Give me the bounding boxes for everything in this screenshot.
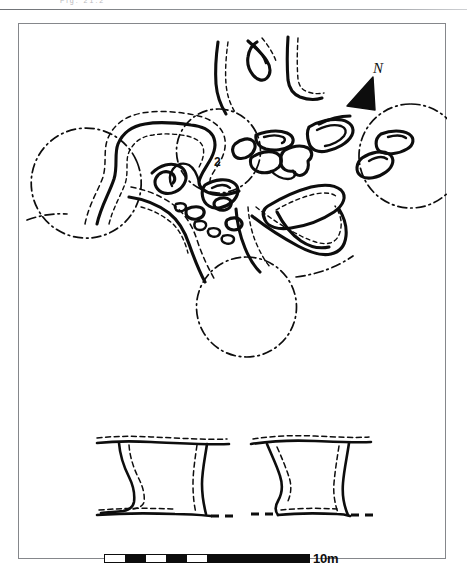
scan-header-strip: Fig. 21.2 [0,0,467,12]
section-right-cut-left [267,444,282,515]
north-arrow-glyph [341,60,397,120]
tumble-north-strip-a [226,42,235,112]
scale-bar-segment [166,555,186,562]
stone-c3 [250,152,281,173]
section-left-base-dash [99,508,173,510]
tumble-north-corner-inner [297,38,324,94]
stone-c6-inner [369,157,387,161]
section-right-cut-right-dash [334,446,339,513]
section-left-base [97,513,211,516]
north-arrow: N [341,60,397,120]
stone-c1-inner [264,136,285,144]
section-right-ground-dash [253,436,369,439]
stone-d3 [222,235,234,244]
scale-bar-segment [187,555,207,562]
scan-header-text: Fig. 21.2 [60,0,105,4]
tumble-sw-inner [141,207,188,253]
stone-d2 [208,228,220,237]
scale-bar-segment [105,555,125,562]
section-left-cut-right-dash [193,445,197,513]
projected-edge-south-east [296,256,353,277]
wall-sw-long [129,197,205,282]
cross-section-right [251,436,375,516]
stone-c5-inner [388,136,406,138]
scale-bar-group: 10m [104,552,338,564]
scale-bar-segment [146,555,166,562]
stone-c2-inner [317,125,346,146]
wall-north-leaf [248,41,270,80]
scale-bar-segment [207,555,309,562]
stone-c9-small [186,207,204,219]
stone-c4-long [263,185,344,228]
section-left-cut [101,443,134,513]
scan-header-rule [0,9,467,10]
figure-frame: .wall { fill:none; stroke:#0d0d0d; strok… [18,23,446,559]
circle-south [197,257,297,357]
north-arrow-label: N [373,60,383,77]
cross-section-left [97,436,237,516]
projected-edge-west-low [27,214,67,220]
section-left-cut-dash [129,445,144,509]
scale-bar [104,554,310,563]
section-right-base [278,513,350,516]
scale-bar-segment [125,555,145,562]
stone-c2 [308,119,353,151]
wall-north-leaf-inner [255,46,266,63]
wall-north-strip-a [216,42,226,114]
figure-page: Fig. 21.2 .wall { fill:none; stroke:#0d0… [0,0,467,582]
section-right-ground [251,441,371,444]
wall-ne-sweep [252,209,346,255]
wall-group-centre [152,119,413,230]
section-left-cut-right [202,444,207,514]
section-left-ground [97,441,229,444]
stone-c8-inner [212,185,230,188]
scale-bar-label: 10m [313,551,338,566]
section-right-cut-right [343,443,349,515]
section-right-base-dash [281,508,337,510]
section-left-ground-dash [97,436,227,439]
wall-group-north [216,37,324,114]
feature-label-2: 2 [214,155,221,169]
stone-c12-hook [233,139,255,159]
stone-c13-arrow [281,146,312,175]
stone-d1 [194,221,206,230]
stone-c5 [376,131,413,154]
